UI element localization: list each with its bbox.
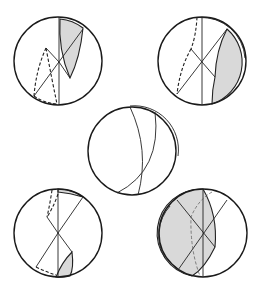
panel-center <box>88 106 178 195</box>
trace-line <box>36 233 58 267</box>
panel-bottom-right <box>157 189 247 277</box>
shaded-lens <box>60 19 83 78</box>
panel-top-left <box>14 17 102 105</box>
trace-line <box>58 197 83 233</box>
dashed-trace <box>34 48 46 96</box>
panel-bottom-left <box>14 189 102 277</box>
shaded-lens <box>56 252 73 277</box>
great-circle-arc <box>130 107 143 195</box>
panel-top-right <box>158 17 246 105</box>
shaded-crescent <box>212 29 242 104</box>
dashed-trace <box>47 194 58 217</box>
shaded-region <box>157 189 215 276</box>
trace-line <box>191 49 215 77</box>
dashed-trace <box>46 48 57 104</box>
trace-line <box>47 217 72 252</box>
primitive-circle <box>88 107 176 195</box>
stereonet-figure <box>0 0 262 293</box>
dashed-trace <box>36 267 56 275</box>
dashed-trace <box>177 49 191 94</box>
dashed-trace <box>191 17 197 49</box>
